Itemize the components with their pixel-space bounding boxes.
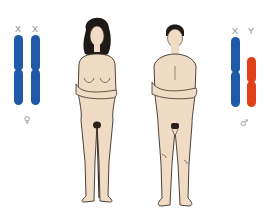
male-xy-chromosomes [229,35,263,110]
female-x-chromosomes [12,33,52,108]
male-figure [140,14,210,214]
female-figure [62,12,132,212]
female-symbol: ♀ [21,115,33,125]
male-symbol: ♂ [238,118,250,128]
